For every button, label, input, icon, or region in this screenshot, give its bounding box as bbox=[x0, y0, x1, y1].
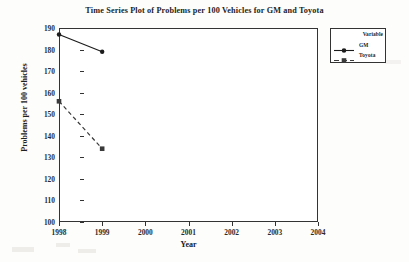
legend-key-solid-circle-icon bbox=[333, 41, 355, 50]
legend-title: Variable bbox=[331, 31, 383, 37]
x-tick-mark bbox=[189, 222, 190, 226]
scan-artifact bbox=[385, 60, 401, 64]
x-axis-ticks: 1998199920002001200220032004 bbox=[59, 222, 318, 240]
legend-key-dashed-square-icon bbox=[333, 51, 355, 60]
data-point-gm[interactable] bbox=[57, 32, 61, 36]
data-series-layer bbox=[59, 28, 318, 222]
x-tick-label: 2003 bbox=[255, 228, 295, 237]
x-tick-mark bbox=[232, 222, 233, 226]
y-axis-label: Problems per 100 vehicles bbox=[20, 38, 29, 178]
x-tick-mark bbox=[145, 222, 146, 226]
x-tick-label: 2004 bbox=[298, 228, 338, 237]
y-tick-label: 160 bbox=[25, 88, 55, 97]
x-tick-label: 1999 bbox=[82, 228, 122, 237]
x-axis-label: Year bbox=[59, 240, 318, 249]
y-tick-label: 140 bbox=[25, 131, 55, 140]
data-point-toyota[interactable] bbox=[100, 146, 105, 151]
y-tick-label: 180 bbox=[25, 45, 55, 54]
y-tick-label: 100 bbox=[25, 218, 55, 227]
x-tick-mark bbox=[102, 222, 103, 226]
legend-label-toyota: Toyota bbox=[359, 52, 376, 58]
chart-title: Time Series Plot of Problems per 100 Veh… bbox=[0, 6, 409, 15]
y-tick-label: 190 bbox=[25, 24, 55, 33]
legend-item-toyota[interactable]: Toyota bbox=[333, 50, 383, 60]
x-tick-label: 2000 bbox=[125, 228, 165, 237]
x-tick-label: 2002 bbox=[212, 228, 252, 237]
x-tick-mark bbox=[275, 222, 276, 226]
y-tick-label: 120 bbox=[25, 174, 55, 183]
data-point-gm[interactable] bbox=[100, 50, 104, 54]
scan-artifact bbox=[78, 249, 96, 253]
series-line-toyota bbox=[59, 101, 102, 148]
legend-box: Variable GM Toyota bbox=[330, 28, 386, 63]
y-axis-ticks: 100110120130140150160170180190 bbox=[25, 28, 55, 222]
y-tick-label: 170 bbox=[25, 67, 55, 76]
y-tick-label: 150 bbox=[25, 110, 55, 119]
data-point-toyota[interactable] bbox=[57, 99, 62, 104]
legend-item-gm[interactable]: GM bbox=[333, 40, 383, 50]
y-tick-label: 130 bbox=[25, 153, 55, 162]
x-tick-mark bbox=[318, 222, 319, 226]
series-line-gm bbox=[59, 34, 102, 51]
x-tick-label: 1998 bbox=[39, 228, 79, 237]
y-tick-label: 110 bbox=[25, 196, 55, 205]
x-tick-mark bbox=[59, 222, 60, 226]
x-tick-label: 2001 bbox=[169, 228, 209, 237]
chart-page: Time Series Plot of Problems per 100 Veh… bbox=[0, 0, 409, 262]
scan-artifact bbox=[12, 247, 34, 252]
legend-label-gm: GM bbox=[359, 42, 369, 48]
